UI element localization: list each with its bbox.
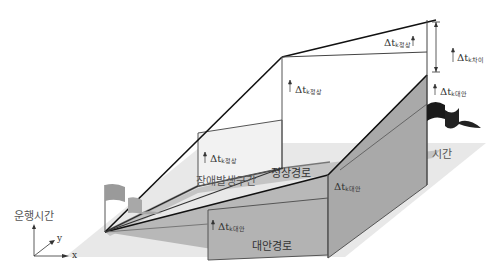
label-normal-route: 정상경로	[271, 164, 311, 180]
axis-label-travel-time: 운행시간	[14, 207, 54, 223]
delta-difference: Δtk차이	[457, 52, 484, 64]
axis-label-time: 시간	[432, 145, 452, 161]
delta-normal-mid: Δtk정상	[295, 84, 322, 96]
label-failure-section: 장애발생구간	[196, 172, 256, 188]
end-flag-icon	[427, 102, 481, 129]
delta-alt-right: Δtk대안	[440, 86, 467, 98]
delta-normal-low: Δtk정상	[210, 153, 237, 165]
axis-label-x: x	[72, 250, 77, 260]
label-alternative-route: 대안경로	[252, 237, 292, 253]
delta-alt-corner: Δtk대안	[334, 181, 361, 193]
delta-normal-top: Δtk정상	[384, 37, 411, 49]
axis-label-y: y	[57, 233, 62, 243]
axes	[32, 224, 69, 258]
route-time-diagram	[0, 0, 499, 272]
delta-alt-low: Δtk대안	[218, 221, 245, 233]
